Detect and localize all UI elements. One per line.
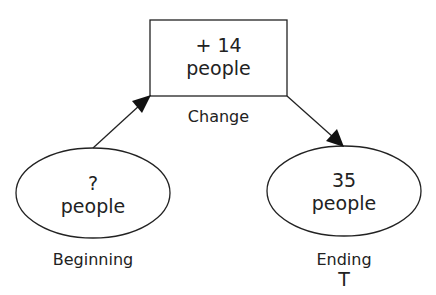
beginning-caption: Beginning (16, 249, 170, 270)
ending-caption: Ending (267, 249, 421, 270)
change-value: + 14 (150, 34, 287, 57)
beginning-text: ? people (16, 172, 170, 218)
ending-unit: people (267, 192, 421, 215)
arrow-beginning-to-change (93, 105, 140, 148)
arrow-change-to-ending (287, 96, 333, 137)
ending-text: 35 people (267, 169, 421, 215)
change-caption: Change (150, 106, 287, 127)
beginning-value: ? (16, 172, 170, 195)
beginning-unit: people (16, 195, 170, 218)
arrowhead-icon (326, 129, 344, 147)
change-unit: people (150, 57, 287, 80)
ending-value: 35 (267, 169, 421, 192)
text-cursor-icon: T (267, 268, 421, 291)
change-box-text: + 14 people (150, 34, 287, 80)
